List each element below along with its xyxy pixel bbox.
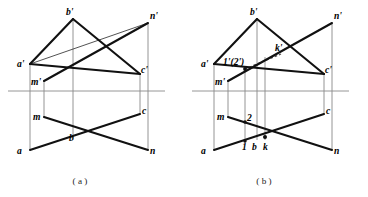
label-n: n (334, 145, 339, 156)
intersection-dots-b (243, 67, 267, 143)
label-n-prime: n' (150, 10, 158, 21)
label-n-prime: n' (334, 10, 342, 21)
caption-panel-b: ( b ) (256, 176, 271, 186)
edge-a-b-plan (214, 114, 324, 150)
label-a-prime: a' (201, 58, 209, 69)
label-c-prime: c' (325, 64, 332, 75)
label-c: c (326, 105, 331, 116)
label-c: c (142, 105, 147, 116)
label-1: 1 (242, 141, 247, 152)
label-a: a (17, 145, 22, 156)
edge-m-n-plan (44, 117, 148, 150)
caption-panel-a: ( a ) (73, 176, 88, 186)
projection-panel-b: b' n' a' k' 1'(2') c' m' m 2 c a 1 b k n… (184, 0, 368, 197)
label-k: k (263, 141, 268, 152)
label-c-prime: c' (141, 64, 148, 75)
label-m: m (217, 111, 224, 122)
label-b: b (69, 132, 74, 143)
label-2: 2 (246, 112, 252, 123)
projection-panel-a: b' n' a' c' m' m c a b n ( a ) (0, 0, 184, 197)
label-m: m (33, 111, 40, 122)
label-b: b (252, 141, 257, 152)
dot-1-2-front (243, 67, 247, 71)
thin-edge-a-prime-n-prime (30, 23, 148, 64)
label-a: a (201, 145, 206, 156)
edge-a-prime-c-prime (30, 64, 140, 74)
label-b-prime: b' (250, 6, 258, 17)
edge-a-prime-b-prime (30, 19, 73, 64)
label-n: n (150, 145, 155, 156)
label-m-prime: m' (215, 76, 225, 87)
figure-root: b' n' a' c' m' m c a b n ( a ) (0, 0, 368, 197)
solid-edges-a (30, 19, 148, 150)
label-b-prime: b' (66, 6, 74, 17)
edge-a-b-plan (30, 114, 140, 150)
thin-edges-a (30, 23, 148, 64)
label-k-prime: k' (275, 42, 283, 53)
label-a-prime: a' (17, 58, 25, 69)
solid-edges-b (214, 19, 332, 150)
label-m-prime: m' (31, 76, 41, 87)
dot-k-plan (263, 135, 267, 139)
label-1-prime-2-prime: 1'(2') (223, 56, 244, 68)
